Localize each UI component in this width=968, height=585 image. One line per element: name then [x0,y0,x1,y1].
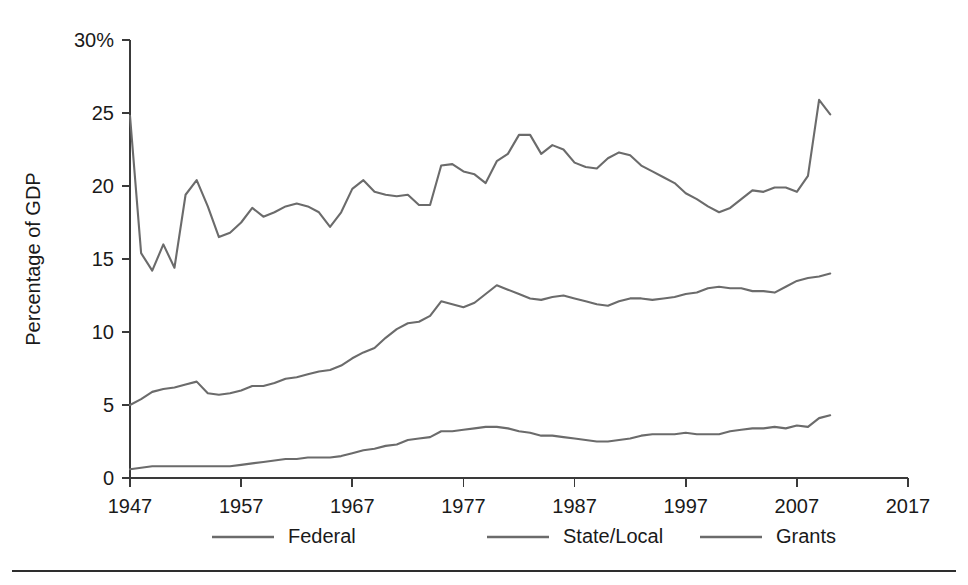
chart-legend: FederalState/LocalGrants [212,525,836,547]
x-tick-label: 1987 [552,495,597,517]
series-line-grants [130,415,830,469]
x-tick-label: 1957 [219,495,264,517]
line-chart: Percentage of GDP 051015202530% 19471957… [0,0,968,585]
y-tick-label: 25 [92,102,114,124]
x-tick-label: 1967 [330,495,375,517]
y-tick-label: 20 [92,175,114,197]
figure-container: Percentage of GDP 051015202530% 19471957… [0,0,968,585]
y-tick-label: 15 [92,248,114,270]
x-tick-label: 1977 [441,495,486,517]
x-tick-label: 1947 [108,495,153,517]
series-line-federal [130,100,830,271]
series-group [130,100,830,469]
series-line-state-local [130,274,830,405]
x-axis-ticks: 19471957196719771987199720072017 [108,478,931,517]
y-tick-label: 10 [92,321,114,343]
legend-label-federal: Federal [288,525,356,547]
legend-label-grants: Grants [776,525,836,547]
y-tick-label: 0 [103,467,114,489]
y-tick-label: 30% [74,29,114,51]
y-axis-title-group: Percentage of GDP [22,172,44,345]
y-axis-ticks: 051015202530% [74,29,130,489]
x-tick-label: 1997 [663,495,708,517]
x-tick-label: 2007 [775,495,820,517]
y-tick-label: 5 [103,394,114,416]
y-axis-title: Percentage of GDP [22,172,44,345]
x-tick-label: 2017 [886,495,931,517]
legend-label-state-local: State/Local [563,525,663,547]
